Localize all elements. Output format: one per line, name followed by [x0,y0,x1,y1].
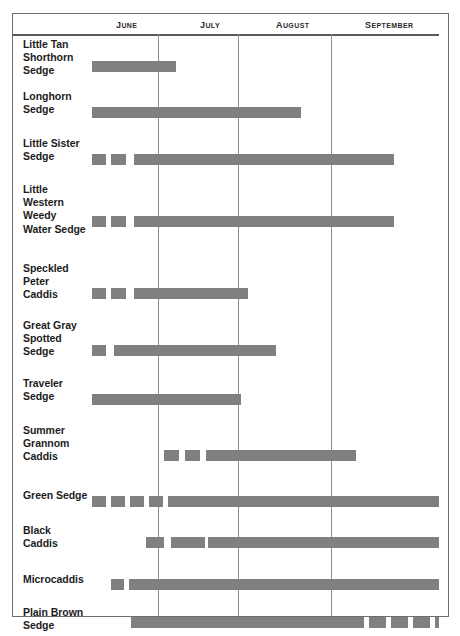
row-label-line: Peter [23,275,101,288]
bar-segment [134,216,394,227]
row-label-line: Western [23,196,101,209]
row-label: TravelerSedge [23,377,101,403]
row-label-line: Microcaddis [23,573,101,586]
bar-segment [130,496,144,507]
row-label: BlackCaddis [23,524,101,550]
row-label-line: Plain Brown [23,606,101,619]
bar-segment [111,288,126,299]
month-header-june: June [116,17,137,31]
bar-segment [92,61,176,72]
row-label: Plain BrownSedge [23,606,101,632]
row-label: LonghornSedge [23,90,101,116]
row-label-line: Great Gray [23,319,101,332]
bar-segment [187,537,205,548]
row-label-line: Caddis [23,537,101,550]
bar-segment [111,154,126,165]
row-label-line: Sedge [23,345,101,358]
bar-segment [114,345,276,356]
month-header-july: July [200,17,220,31]
bar-segment [134,154,394,165]
row-label: Little SisterSedge [23,137,101,163]
bar-segment [111,496,125,507]
row-label: Little TanShorthornSedge [23,38,101,78]
row-label: Great GraySpottedSedge [23,319,101,359]
chart-rows: Little TanShorthornSedgeLonghornSedgeLit… [13,34,448,616]
row-label-line: Caddis [23,450,101,463]
bar-segment [92,216,106,227]
bar-segment [413,617,430,628]
bar-segment [178,496,439,507]
bar-segment [134,288,248,299]
row-label-line: Little Sister [23,137,101,150]
row-label: Green Sedge [23,489,101,502]
row-label: Microcaddis [23,573,101,586]
bar-segment [92,288,106,299]
bar-segment [129,579,439,590]
row-label-line: Sedge [23,390,101,403]
bar-segment [369,617,386,628]
row-label-line: Sedge [23,619,101,632]
row-label-line: Sedge [23,103,101,116]
row-label-line: Little Tan [23,38,101,51]
row-label: LittleWesternWeedyWater Sedge [23,183,101,236]
row-label-line: Sedge [23,150,101,163]
bar-segment [92,345,106,356]
row-label-line: Summer [23,424,101,437]
row-label-line: Black [23,524,101,537]
row-label-line: Longhorn [23,90,101,103]
row-label-line: Spotted [23,332,101,345]
emergence-chart: JuneJulyAugustSeptember Little TanShorth… [12,13,449,617]
row-label-line: Traveler [23,377,101,390]
bar-segment [92,154,106,165]
row-label-line: Shorthorn [23,51,101,64]
bar-segment [435,617,439,628]
bar-segment [131,617,364,628]
row-label-line: Weedy [23,209,101,222]
bar-segment [92,394,241,405]
row-label-line: Water Sedge [23,223,101,236]
bar-segment [111,216,126,227]
row-label-line: Green Sedge [23,489,101,502]
bar-segment [164,450,179,461]
row-label: SpeckledPeterCaddis [23,262,101,302]
row-label-line: Grannom [23,437,101,450]
bar-segment [391,617,408,628]
bar-segment [206,450,356,461]
bar-segment [92,107,301,118]
bar-segment [185,450,200,461]
row-label-line: Little [23,183,101,196]
month-header-row: JuneJulyAugustSeptember [13,14,448,34]
row-label-line: Caddis [23,288,101,301]
bar-segment [149,496,163,507]
month-header-september: September [365,17,414,31]
month-header-august: August [276,17,309,31]
bar-segment [92,496,106,507]
row-label-line: Sedge [23,64,101,77]
bar-segment [208,537,439,548]
row-label: SummerGrannomCaddis [23,424,101,464]
bar-segment [111,579,124,590]
row-label-line: Speckled [23,262,101,275]
bar-segment [146,537,164,548]
